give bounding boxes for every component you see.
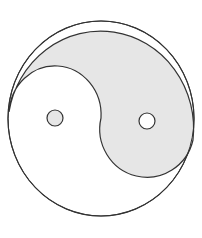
yin-yang-figure: Yin-yang symbol: [0, 0, 202, 238]
yin-yang-svg: [0, 0, 202, 238]
shaded-dot-icon: [47, 110, 63, 126]
light-dot-icon: [139, 113, 155, 129]
